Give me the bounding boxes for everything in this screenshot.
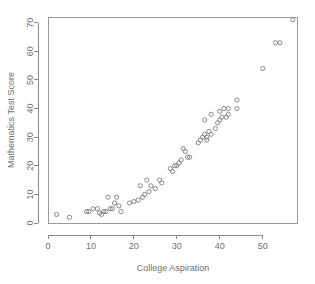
- scatter-point: [138, 184, 142, 188]
- scatter-point: [168, 167, 172, 171]
- plot-canvas: 01020304050 010203040506070 College Aspi…: [0, 0, 315, 284]
- scatter-point: [226, 106, 230, 110]
- scatter-point: [117, 204, 121, 208]
- scatter-point: [127, 201, 131, 205]
- scatter-point: [149, 184, 153, 188]
- y-tick-label: 10: [25, 189, 35, 199]
- x-tick-label: 40: [215, 241, 225, 251]
- y-tick-label: 50: [25, 75, 35, 85]
- plot-border: [48, 17, 297, 223]
- scatter-point: [67, 215, 71, 219]
- scatter-point: [213, 126, 217, 130]
- scatter-point: [220, 115, 224, 119]
- y-tick-label: 0: [25, 220, 35, 225]
- scatter-plot-figure: 01020304050 010203040506070 College Aspi…: [0, 0, 315, 284]
- y-tick-label: 60: [25, 46, 35, 56]
- scatter-point: [136, 198, 140, 202]
- scatter-point: [278, 41, 282, 45]
- x-tick-label: 10: [86, 241, 96, 251]
- scatter-point: [224, 115, 228, 119]
- scatter-point: [261, 66, 265, 70]
- x-tick-label: 0: [45, 241, 50, 251]
- scatter-point: [273, 41, 277, 45]
- x-axis-title: College Aspiration: [137, 263, 210, 273]
- scatter-point: [209, 132, 213, 136]
- scatter-point: [170, 169, 174, 173]
- scatter-point: [218, 109, 222, 113]
- scatter-point: [205, 138, 209, 142]
- scatter-point: [177, 161, 181, 165]
- y-tick-label: 40: [25, 104, 35, 114]
- x-tick-label: 20: [129, 241, 139, 251]
- scatter-point: [112, 201, 116, 205]
- scatter-point: [91, 207, 95, 211]
- scatter-point: [181, 147, 185, 151]
- scatter-point: [222, 106, 226, 110]
- scatter-point: [200, 135, 204, 139]
- scatter-point: [132, 199, 136, 203]
- scatter-point: [209, 112, 213, 116]
- scatter-point: [140, 195, 144, 199]
- scatter-point: [95, 207, 99, 211]
- y-axis-title: Mathematics Test Score: [6, 72, 16, 168]
- scatter-point: [145, 178, 149, 182]
- scatter-point: [218, 118, 222, 122]
- x-tick-label: 30: [172, 241, 182, 251]
- scatter-point: [158, 178, 162, 182]
- scatter-point: [235, 98, 239, 102]
- y-tick-label: 70: [25, 18, 35, 28]
- scatter-point: [203, 118, 207, 122]
- scatter-point: [198, 138, 202, 142]
- scatter-point: [203, 132, 207, 136]
- scatter-point: [196, 141, 200, 145]
- scatter-point: [183, 149, 187, 153]
- scatter-point: [235, 106, 239, 110]
- scatter-point: [153, 187, 157, 191]
- scatter-point: [179, 158, 183, 162]
- scatter-point: [119, 209, 123, 213]
- scatter-point: [106, 195, 110, 199]
- x-axis: 01020304050: [45, 235, 267, 251]
- scatter-point: [291, 18, 295, 22]
- scatter-point: [160, 181, 164, 185]
- y-tick-label: 20: [25, 161, 35, 171]
- scatter-point: [215, 121, 219, 125]
- x-tick-label: 50: [258, 241, 268, 251]
- y-axis: 010203040506070: [25, 18, 38, 226]
- scatter-point: [226, 112, 230, 116]
- y-tick-label: 30: [25, 132, 35, 142]
- scatter-point: [207, 129, 211, 133]
- scatter-point: [115, 195, 119, 199]
- scatter-point: [54, 212, 58, 216]
- data-points: [54, 18, 294, 220]
- scatter-point: [142, 192, 146, 196]
- scatter-point: [147, 189, 151, 193]
